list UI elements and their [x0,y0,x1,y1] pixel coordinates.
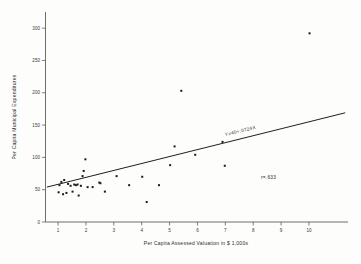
scatter-plot-figure: 050100150200250300 12345678910 Y=40+.072… [0,0,361,264]
x-tick-label: 9 [280,228,283,233]
y-axis-ticks: 050100150200250300 [32,26,45,225]
data-point [92,186,94,188]
data-point [72,191,74,193]
y-tick-label: 200 [32,90,40,95]
y-tick-label: 150 [32,123,40,128]
data-point [58,191,60,193]
x-tick-label: 3 [113,228,116,233]
data-point [224,165,226,167]
data-point [169,164,171,166]
data-point [194,154,196,156]
data-point [82,175,84,177]
data-point [78,195,80,197]
x-tick-label: 6 [196,228,199,233]
data-point [104,191,106,193]
data-point [174,145,176,147]
data-point [77,184,79,186]
x-axis-title: Per Capita Assessed Valuation in $ 1,000… [144,240,249,246]
correlation-annotation: r=.633 [261,175,276,180]
x-tick-label: 10 [306,228,312,233]
data-point [87,186,89,188]
regression-equation-label: Y=40+.0724X [224,125,256,138]
x-tick-label: 4 [140,228,143,233]
x-tick-label: 2 [85,228,88,233]
data-point [60,181,62,183]
regression-line [47,113,345,187]
data-point [99,182,101,184]
data-point [222,141,224,143]
data-point [80,185,82,187]
data-point [67,183,69,185]
data-point [146,201,148,203]
data-point [63,179,65,181]
y-tick-label: 100 [32,155,40,160]
x-axis-ticks: 12345678910 [57,222,312,233]
x-tick-label: 5 [168,228,171,233]
data-point [309,32,311,34]
plot-canvas: 050100150200250300 12345678910 Y=40+.072… [0,0,361,264]
x-tick-label: 7 [224,228,227,233]
data-point [70,185,72,187]
data-point [158,184,160,186]
y-tick-label: 0 [37,220,40,225]
y-tick-label: 300 [32,26,40,31]
y-tick-label: 50 [35,187,41,192]
data-point [141,176,143,178]
y-axis-title: Per Capita Municipal Expenditures [11,74,17,159]
data-point [180,90,182,92]
data-point [58,184,60,186]
data-point [116,175,118,177]
data-point [65,192,67,194]
data-point [128,184,130,186]
data-point [83,170,85,172]
data-point [62,193,64,195]
x-tick-label: 8 [252,228,255,233]
y-tick-label: 250 [32,58,40,63]
x-tick-label: 1 [57,228,60,233]
data-point [84,158,86,160]
